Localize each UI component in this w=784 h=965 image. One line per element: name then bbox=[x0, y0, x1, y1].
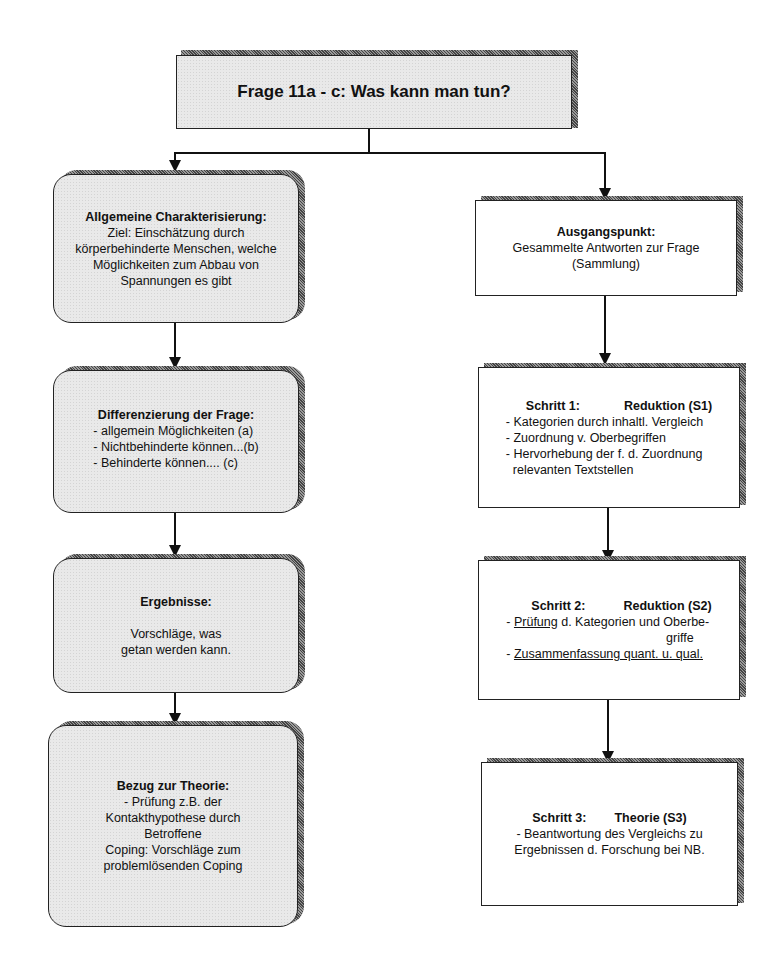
box-heading: Bezug zur Theorie: bbox=[117, 778, 230, 794]
box-line: getan werden kann. bbox=[121, 642, 231, 658]
box-line: Vorschläge, was bbox=[130, 626, 221, 642]
box-heading: Differenzierung der Frage: bbox=[98, 407, 254, 423]
step-label: Schritt 3: bbox=[532, 811, 586, 825]
box-line: griffe bbox=[506, 630, 711, 646]
title-text: Frage 11a - c: Was kann man tun? bbox=[237, 84, 510, 100]
title-box: Frage 11a - c: Was kann man tun? bbox=[176, 55, 572, 129]
general-characterization-box: Allgemeine Charakterisierung: Ziel: Eins… bbox=[53, 174, 299, 323]
box-line: problemlösenden Coping bbox=[104, 858, 243, 874]
box-line: Gesammelte Antworten zur Frage bbox=[513, 240, 700, 256]
step2-reduction-box: Schritt 2:Reduktion (S2) - Prüfung d. Ka… bbox=[478, 560, 740, 700]
box-line: Möglichkeiten zum Abbau von bbox=[93, 257, 259, 273]
connector bbox=[174, 693, 176, 715]
box-line: - Behinderte können.... (c) bbox=[93, 455, 258, 471]
box-line: (Sammlung) bbox=[572, 256, 640, 272]
step-label: Schritt 2: bbox=[531, 599, 585, 613]
connector bbox=[607, 508, 609, 550]
results-box: Ergebnisse: Vorschläge, was getan werden… bbox=[53, 558, 299, 693]
underlined-term: Zusammenfassung quant. u. qual. bbox=[514, 647, 703, 661]
box-heading: Allgemeine Charakterisierung: bbox=[85, 209, 266, 225]
connector bbox=[607, 700, 609, 752]
box-line: Ergebnissen d. Forschung bei NB. bbox=[514, 842, 704, 858]
box-line: - Prüfung z.B. der bbox=[124, 794, 222, 810]
step-label: Schritt 1: bbox=[526, 399, 580, 413]
step-name: Reduktion (S1) bbox=[624, 399, 712, 413]
box-line: Kontakthypothese durch bbox=[106, 810, 241, 826]
box-line: - Nichtbehinderte können...(b) bbox=[93, 439, 258, 455]
box-line: - allgemein Möglichkeiten (a) bbox=[93, 423, 258, 439]
step-name: Reduktion (S2) bbox=[623, 599, 711, 613]
box-line: Betroffene bbox=[144, 826, 201, 842]
box-heading: Ergebnisse: bbox=[140, 594, 212, 610]
theory-reference-box: Bezug zur Theorie: - Prüfung z.B. der Ko… bbox=[48, 725, 298, 927]
question-differentiation-box: Differenzierung der Frage: - allgemein M… bbox=[53, 370, 299, 513]
connector bbox=[174, 323, 176, 359]
connector-title-down bbox=[368, 129, 370, 154]
box-line: Ziel: Einschätzung durch bbox=[108, 225, 245, 241]
connector bbox=[174, 513, 176, 547]
box-line: körperbehinderte Menschen, welche bbox=[75, 241, 277, 257]
step-name: Theorie (S3) bbox=[614, 811, 686, 825]
box-line: Spannungen es gibt bbox=[120, 273, 231, 289]
step1-reduction-box: Schritt 1:Reduktion (S1) - Kategorien du… bbox=[478, 367, 740, 508]
connector-right-down bbox=[604, 152, 606, 190]
box-heading: Schritt 2:Reduktion (S2) bbox=[506, 598, 711, 614]
connector-horizontal bbox=[174, 152, 606, 154]
box-heading: Ausgangspunkt: bbox=[557, 224, 656, 240]
box-line: relevanten Textstellen bbox=[506, 462, 712, 478]
box-line: - Zuordnung v. Oberbegriffen bbox=[506, 430, 712, 446]
box-line: Coping: Vorschläge zum bbox=[105, 842, 241, 858]
connector bbox=[604, 296, 606, 354]
box-line: - Beantwortung des Vergleichs zu bbox=[516, 826, 702, 842]
starting-point-box: Ausgangspunkt: Gesammelte Antworten zur … bbox=[475, 200, 737, 296]
box-line: - Prüfung d. Kategorien und Oberbe- bbox=[506, 614, 711, 630]
step3-theory-box: Schritt 3:Theorie (S3) - Beantwortung de… bbox=[481, 762, 738, 906]
box-line: - Zusammenfassung quant. u. qual. bbox=[506, 646, 711, 662]
box-heading: Schritt 1:Reduktion (S1) bbox=[506, 398, 712, 414]
box-line: - Hervorhebung der f. d. Zuordnung bbox=[506, 446, 712, 462]
underlined-term: Prüfung bbox=[514, 615, 558, 629]
box-line: - Kategorien durch inhaltl. Vergleich bbox=[506, 414, 712, 430]
box-heading: Schritt 3:Theorie (S3) bbox=[532, 810, 686, 826]
